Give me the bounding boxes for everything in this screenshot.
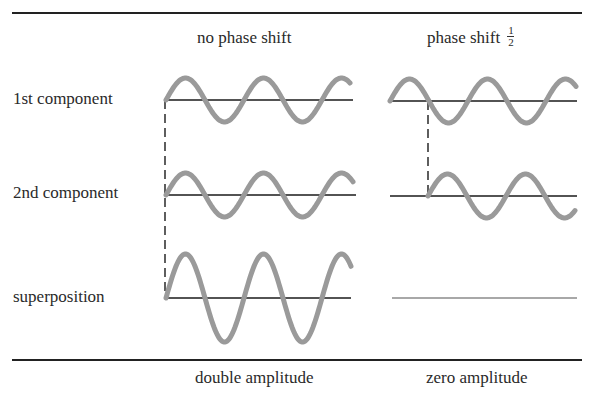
wave-diagram [0, 0, 596, 401]
